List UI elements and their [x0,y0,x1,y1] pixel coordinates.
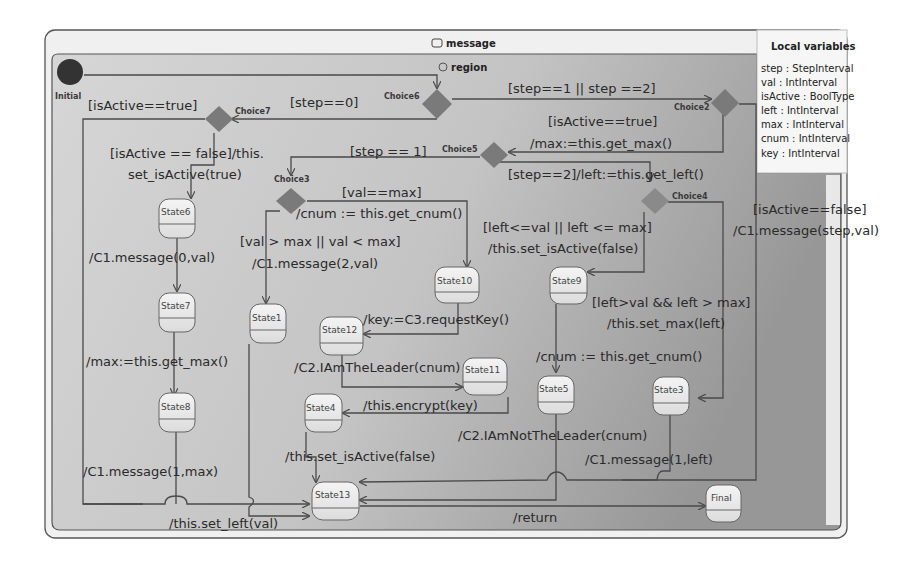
label-c2-true-1: [isActive==true] [548,114,657,129]
label-c5-c3: [step == 1] [350,144,427,159]
label-c7-true: [isActive==true] [88,98,197,113]
state-state3[interactable]: State3 [653,377,689,415]
label-c7-false-1: [isActive == false]/this. [110,146,264,161]
region-title-text: region [451,62,487,73]
state-state6[interactable]: State6 [159,199,195,238]
state-state1[interactable]: State1 [250,304,286,343]
label-c6-c2: [step==1 || step ==2] [508,81,656,96]
state-state5[interactable]: State5 [538,376,574,414]
state12-name: State12 [322,325,357,335]
label-c4-s3-2: /this.set_max(left) [607,316,725,331]
label-c5-c4: [step==2]/left:=this.get_left() [508,167,704,182]
local-var: isActive : BoolType [761,91,855,102]
state7-name: State7 [161,301,191,311]
state-state9[interactable]: State9 [550,267,587,304]
local-var: val : IntInterval [761,77,837,88]
choice7-label: Choice7 [235,107,271,116]
label-s9-s5: /cnum := this.get_cnum() [536,349,702,364]
state-state4[interactable]: State4 [305,394,342,432]
state4-name: State4 [306,403,336,413]
state13-name: State13 [315,490,350,500]
label-s1-s13: /this.set_left(val) [169,516,278,531]
state-state13[interactable]: State13 [312,482,359,520]
label-s10-s12: /key:=C3.requestKey() [363,312,509,327]
label-s12-s11: /C2.IAmTheLeader(cnum) [294,360,460,375]
local-var: max : IntInterval [761,119,844,130]
label-c4-s9-2: /this.set_isActive(false) [488,241,638,256]
machine-title-text: message [446,38,496,49]
label-c6-c7: [step==0] [290,95,358,110]
state8-name: State8 [161,402,191,412]
local-var: cnum : IntInterval [761,133,850,144]
local-variables-title: Local variables [771,41,856,52]
local-variables-panel: Local variables step : StepInterval val … [757,30,856,173]
state-state12[interactable]: State12 [320,317,363,355]
label-s11-s4: /this.encrypt(key) [363,398,478,413]
label-c2-false-1: [isActive==false] [753,202,866,217]
label-c2-false-2: /C1.message(step,val) [733,223,879,238]
state5-name: State5 [539,384,569,394]
state1-name: State1 [252,313,282,323]
state-state7[interactable]: State7 [159,293,195,332]
local-var: step : StepInterval [761,63,853,74]
state-state10[interactable]: State10 [435,267,479,303]
local-var: key : IntInterval [761,148,840,159]
initial-label: Initial [55,92,81,101]
choice4-label: Choice4 [672,192,708,201]
label-c7-false-2: set_isActive(true) [128,167,242,182]
final-name: Final [711,493,732,503]
state10-name: State10 [437,276,473,286]
state11-name: State11 [465,365,500,375]
label-c3-s1-2: /C1.message(2,val) [252,256,378,271]
label-s8-s13: /C1.message(1,max) [83,464,218,479]
state-state8[interactable]: State8 [159,393,195,432]
choice6-label: Choice6 [384,92,420,101]
label-s13-final: /return [513,510,557,525]
label-s6-s7: /C1.message(0,val) [89,250,215,265]
state-machine-diagram: message region Local variables step : St… [0,0,923,569]
choice3-label: Choice3 [274,175,310,184]
label-c3-s10-1: [val==max] [342,185,422,200]
state-state11[interactable]: State11 [463,358,507,395]
label-c4-s3-1: [left>val && left > max] [592,295,750,310]
state6-name: State6 [161,207,191,217]
local-var: left : IntInterval [761,105,838,116]
label-s4-s13: /this.set_isActive(false) [285,449,435,464]
choice5-label: Choice5 [442,145,478,154]
label-c4-s9-1: [left<=val || left <= max] [483,220,652,235]
state9-name: State9 [552,276,582,286]
label-c3-s1-1: [val > max || val < max] [240,234,401,249]
label-c3-s10-2: /cnum := this.get_cnum() [296,206,462,221]
state3-name: State3 [654,385,684,395]
label-s7-s8: /max:=this.get_max() [86,354,228,369]
final-state[interactable]: Final [706,485,741,522]
label-c2-true-2: /max:=this.get_max() [530,136,672,151]
label-s5-s13: /C2.IAmNotTheLeader(cnum) [458,428,647,443]
choice2-label: Choice2 [674,103,710,112]
label-s3-s13: /C1.message(1,left) [585,452,713,467]
